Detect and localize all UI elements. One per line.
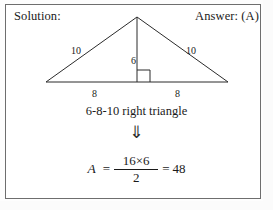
scan-edge-bottom [0,201,273,210]
worksheet-page: Solution: Answer: (A) 10 10 6 8 8 6-8-10… [0,0,273,210]
label-base-left: 8 [92,88,97,99]
label-leg-right: 10 [186,45,196,56]
equation-equals-second: = [162,161,169,177]
fraction-numerator: 16×6 [120,154,153,169]
label-base-right: 8 [175,88,180,99]
equation-fraction: 16×6 2 [114,154,158,184]
double-down-arrow-icon: ⇓ [0,124,273,141]
equation-variable: A [88,161,96,177]
label-altitude: 6 [131,55,136,66]
fraction-denominator: 2 [130,170,143,185]
area-equation: A = 16×6 2 = 48 [0,154,273,184]
equation-result: 48 [172,161,185,177]
figure-caption: 6-8-10 right triangle [0,104,273,119]
label-leg-left: 10 [71,45,81,56]
right-angle-marker-icon [137,70,150,82]
equation-equals-first: = [103,161,110,177]
triangle-diagram-svg [5,4,261,104]
